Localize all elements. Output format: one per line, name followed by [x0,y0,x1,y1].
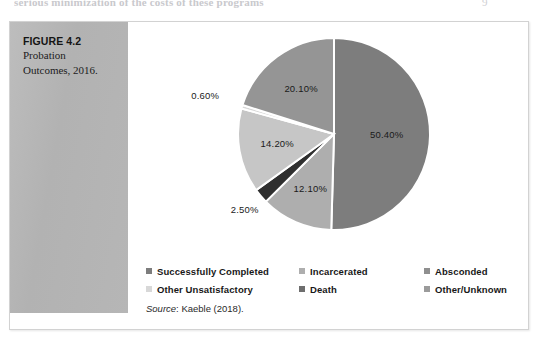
legend-item[interactable]: Other/Unknown [424,284,524,295]
chart-area: 50.40%12.10%2.50%14.20%0.60%20.10% Succe… [128,22,528,329]
page-number: 9 [482,0,488,8]
source-citation: : Kaeble (2018). [176,303,244,314]
figure-container: FIGURE 4.2 Probation Outcomes, 2016. 50.… [9,21,529,330]
legend-item[interactable]: Successfully Completed [146,266,299,277]
legend-item[interactable]: Death [299,284,424,295]
pie-slice-value-label: 12.10% [290,183,330,194]
figure-caption-title: FIGURE 4.2 [23,35,121,48]
legend-item[interactable]: Other Unsatisfactory [146,284,299,295]
figure-caption-text: FIGURE 4.2 Probation Outcomes, 2016. [23,35,121,77]
figure-caption-line-2: Outcomes, 2016. [23,64,121,78]
page-running-text: serious minimization of the costs of the… [14,0,474,8]
legend-item-label: Incarcerated [310,266,368,277]
legend-swatch-icon [424,268,430,274]
figure-caption-line-1: Probation [23,49,121,63]
legend-swatch-icon [299,286,305,292]
source-label: Source [146,303,176,314]
figure-caption-panel: FIGURE 4.2 Probation Outcomes, 2016. [10,22,128,313]
pie-slice-value-label: 20.10% [281,83,321,94]
legend-swatch-icon [424,286,430,292]
pie-slice-value-label: 14.20% [257,138,297,149]
legend-swatch-icon [299,268,305,274]
legend-item[interactable]: Incarcerated [299,266,424,277]
legend-item-label: Absconded [435,266,488,277]
chart-legend: Successfully CompletedIncarceratedAbscon… [146,262,524,298]
legend-item-label: Other/Unknown [435,284,507,295]
legend-row: Other UnsatisfactoryDeathOther/Unknown [146,280,524,298]
legend-swatch-icon [146,286,152,292]
pie-slice-value-label: 2.50% [225,204,265,215]
legend-item-label: Death [310,284,337,295]
pie-slice-value-label: 50.40% [367,129,407,140]
legend-item-label: Other Unsatisfactory [157,284,253,295]
pie-slice-value-label: 0.60% [185,90,225,101]
legend-swatch-icon [146,268,152,274]
legend-item-label: Successfully Completed [157,266,269,277]
legend-row: Successfully CompletedIncarceratedAbscon… [146,262,524,280]
legend-item[interactable]: Absconded [424,266,524,277]
figure-source: Source: Kaeble (2018). [146,303,244,314]
